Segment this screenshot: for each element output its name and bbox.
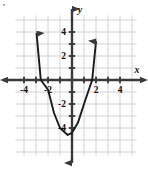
y-axis-title: y bbox=[77, 4, 83, 15]
x-tick-label: 4 bbox=[118, 85, 123, 95]
graph-figure: -4-22442-2-4xy bbox=[0, 0, 148, 169]
y-tick-label: 4 bbox=[61, 27, 66, 37]
y-tick-label: 2 bbox=[61, 51, 66, 61]
y-tick-label: -4 bbox=[58, 123, 66, 133]
x-tick-label: -4 bbox=[20, 85, 28, 95]
coordinate-plane-svg: -4-22442-2-4xy bbox=[0, 0, 148, 169]
x-axis-title: x bbox=[134, 64, 140, 75]
x-tick-label: -2 bbox=[44, 85, 52, 95]
x-tick-label: 2 bbox=[94, 85, 99, 95]
y-tick-label: -2 bbox=[58, 99, 66, 109]
